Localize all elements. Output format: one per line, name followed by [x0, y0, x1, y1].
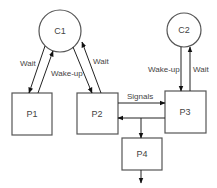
- edge-p2-c1-wait: Wait: [82, 42, 109, 93]
- diagram-canvas: C1 C2 P1 P2 P3 P4 Wait Wake-up Wa: [0, 0, 217, 188]
- edge-c1-p1-wait-label: Wait: [20, 59, 36, 68]
- node-p4-label: P4: [136, 149, 147, 159]
- node-p2: P2: [77, 93, 118, 134]
- edge-p1-c1-wakeup-label: Wake-up: [51, 69, 83, 78]
- node-p1: P1: [12, 93, 52, 135]
- edge-p1-c1-wakeup: Wake-up: [38, 51, 83, 93]
- edge-p3-c2-wait-label: Wait: [193, 65, 209, 74]
- edge-c1-p1-wait: Wait: [20, 46, 45, 93]
- edge-p2-p3-signals: Signals: [118, 92, 165, 103]
- node-c2: C2: [167, 13, 201, 47]
- node-c1-label: C1: [54, 26, 66, 36]
- node-p1-label: P1: [26, 109, 37, 119]
- node-p3-label: P3: [179, 107, 190, 117]
- node-c2-label: C2: [178, 25, 190, 35]
- edge-p3-c2-wait: Wait: [190, 47, 209, 91]
- node-c1: C1: [39, 10, 81, 52]
- node-p3: P3: [165, 91, 206, 133]
- edge-p2-p3-signals-label: Signals: [127, 92, 153, 101]
- edge-c2-p3-wakeup: Wake-up: [148, 47, 181, 91]
- node-p2-label: P2: [91, 109, 102, 119]
- edge-c2-p3-wakeup-label: Wake-up: [148, 65, 180, 74]
- edge-p2-c1-wait-label: Wait: [93, 57, 109, 66]
- node-p4: P4: [122, 138, 162, 170]
